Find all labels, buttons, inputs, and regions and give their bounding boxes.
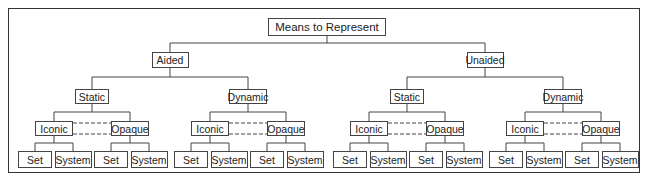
node-aided-dynamic-opaque: Opaque [267, 121, 305, 136]
node-unaided-static-iconic: Iconic [350, 121, 388, 136]
node-unaided-dynamic-iconic: Iconic [506, 121, 544, 136]
node-unaided: Unaided [467, 52, 504, 68]
node-aided-static-opaque: Opaque [111, 121, 149, 136]
node-leaf-set: Set [94, 151, 128, 168]
node-leaf-set: Set [565, 151, 599, 168]
node-leaf-system: System [211, 151, 248, 168]
node-root: Means to Represent [268, 18, 386, 36]
node-leaf-system: System [287, 151, 324, 168]
node-leaf-system: System [526, 151, 563, 168]
node-leaf-system: System [131, 151, 168, 168]
node-unaided-dynamic: Dynamic [544, 89, 582, 104]
node-aided-static-iconic: Iconic [35, 121, 73, 136]
node-leaf-set: Set [489, 151, 523, 168]
node-leaf-set: Set [18, 151, 52, 168]
node-leaf-set: Set [333, 151, 367, 168]
node-leaf-system: System [370, 151, 407, 168]
node-leaf-set: Set [409, 151, 443, 168]
node-leaf-set: Set [250, 151, 284, 168]
node-unaided-dynamic-opaque: Opaque [582, 121, 620, 136]
node-aided-dynamic-iconic: Iconic [191, 121, 229, 136]
node-leaf-system: System [602, 151, 639, 168]
node-leaf-system: System [446, 151, 483, 168]
node-aided: Aided [152, 52, 189, 68]
node-leaf-system: System [55, 151, 92, 168]
node-leaf-set: Set [174, 151, 208, 168]
node-unaided-static: Static [390, 89, 424, 104]
node-aided-static: Static [75, 89, 109, 104]
node-unaided-static-opaque: Opaque [426, 121, 464, 136]
node-aided-dynamic: Dynamic [229, 89, 267, 104]
